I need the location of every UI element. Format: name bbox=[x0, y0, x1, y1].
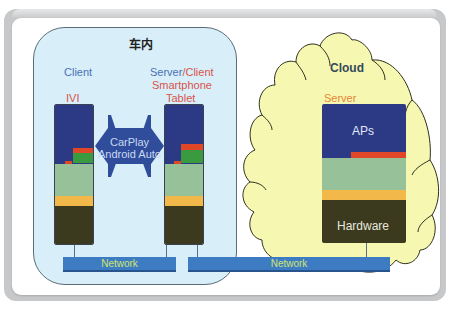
network-bar-vehicle: Network bbox=[63, 257, 176, 272]
phone-network-connector-right bbox=[197, 245, 198, 257]
carplay-label: CarPlay bbox=[110, 136, 149, 148]
cloud-hardware-label: Hardware bbox=[337, 220, 389, 232]
network-bar-cloud: Network bbox=[188, 257, 390, 272]
ivi-network-connector bbox=[74, 245, 75, 257]
cloud-title: Cloud bbox=[330, 62, 364, 74]
cloud-apps-label: APs bbox=[352, 125, 374, 137]
cloud-server-label: Server bbox=[324, 92, 356, 104]
cloud-driver-layer bbox=[322, 190, 406, 200]
android-auto-label: Android Auto bbox=[98, 148, 161, 160]
phone-network-connector-left bbox=[166, 245, 167, 257]
cloud-network-connector bbox=[366, 243, 367, 257]
cloud-os-layer bbox=[322, 158, 406, 190]
